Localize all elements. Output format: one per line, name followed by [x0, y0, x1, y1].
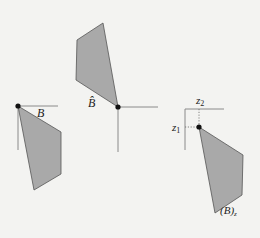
translation-point-dot [196, 124, 201, 129]
origin-dot [15, 103, 20, 108]
panel-translation: z2 z1 (B)z [171, 94, 243, 218]
label-b-hat: B̂ [88, 96, 96, 110]
label-z1: z1 [171, 121, 180, 135]
morphology-diagram: B B̂ z2 z1 (B)z [0, 0, 260, 238]
label-b: B [37, 106, 45, 120]
label-b-sub-z: (B)z [220, 204, 237, 218]
translated-set-shape [199, 127, 243, 213]
reflected-set-shape [76, 23, 118, 107]
label-z2: z2 [195, 94, 204, 108]
origin-dot [115, 104, 120, 109]
panel-reflection: B̂ [76, 23, 158, 152]
panel-original-b: B [15, 103, 61, 190]
